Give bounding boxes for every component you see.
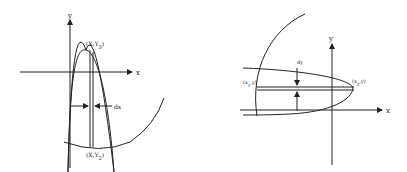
dx-label: dx bbox=[114, 103, 122, 110]
x-axis-label: x bbox=[386, 107, 390, 115]
dy-label: dy bbox=[297, 59, 303, 66]
bottom-point-label: (X,Y2) bbox=[86, 151, 104, 161]
right-diagram: y x dy (x1,y) (x2,y) bbox=[240, 14, 390, 165]
right-point-label: (x2,y) bbox=[352, 78, 366, 87]
diagram-canvas: y x dx (X,Y3) (X,Y2) y x bbox=[0, 0, 407, 172]
circle-arc bbox=[256, 14, 305, 116]
x-axis-label: x bbox=[136, 69, 140, 77]
parabola-curve bbox=[243, 68, 353, 115]
top-point-label: (X,Y3) bbox=[86, 40, 104, 50]
y-axis-label: y bbox=[328, 35, 333, 43]
left-point-label: (x1,y) bbox=[243, 79, 257, 88]
left-diagram: y x dx (X,Y3) (X,Y2) bbox=[20, 12, 164, 172]
y-axis-label: y bbox=[67, 12, 72, 20]
